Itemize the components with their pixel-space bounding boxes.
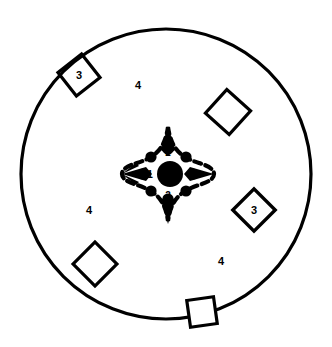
square-bottom-left-shape — [73, 242, 117, 286]
square-right-label: 3 — [251, 204, 257, 216]
ring-dot — [180, 185, 191, 196]
ring-dot — [145, 151, 156, 162]
core-disc — [157, 161, 183, 187]
square-bottom-edge-shape — [187, 297, 217, 327]
diagram-canvas: 1 2 2 3 3 — [0, 0, 332, 347]
square-top-left: 3 — [58, 54, 100, 96]
ring-dot — [145, 185, 156, 196]
region-label-lower-right: 4 — [218, 255, 225, 267]
four-point-star-cluster: 1 2 2 — [122, 126, 214, 224]
square-top-right-shape — [205, 89, 250, 134]
square-bottom-left — [73, 242, 117, 286]
square-bottom-edge — [187, 297, 217, 327]
region-label-top: 4 — [135, 79, 142, 91]
square-top-right — [205, 89, 250, 134]
region-label-lower-left: 4 — [86, 204, 93, 216]
square-right: 3 — [233, 189, 275, 231]
inner-label-2-top: 2 — [165, 147, 171, 158]
ring-dot — [187, 168, 198, 179]
inner-label-2-bottom: 2 — [165, 190, 171, 201]
ring-dot — [180, 151, 191, 162]
figure-root: 1 2 2 3 3 — [0, 0, 332, 347]
inner-label-1: 1 — [147, 169, 153, 180]
square-top-left-label: 3 — [76, 69, 82, 81]
